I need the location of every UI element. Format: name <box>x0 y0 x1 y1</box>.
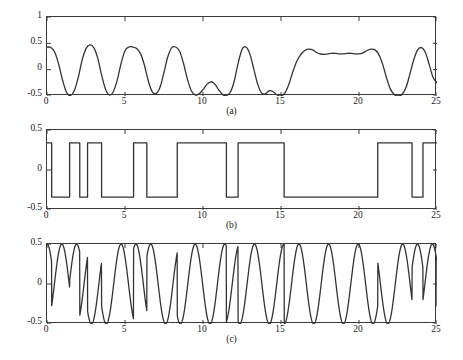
panel-b: 0.5 0 -0.5 0 5 10 15 20 25 (b) <box>0 115 463 230</box>
figure-canvas: 1 0.5 0 -0.5 0 5 10 15 20 25 (a) 0.5 0 -… <box>0 0 463 360</box>
panel-b-xtick-0: 0 <box>34 211 58 221</box>
panel-a-xtick-0: 0 <box>34 97 58 107</box>
panel-c-ytick-05: 0.5 <box>14 238 42 248</box>
panel-c-xtick-10: 10 <box>190 325 214 335</box>
panel-c: 0.5 0 -0.5 0 5 10 15 20 25 (c) <box>0 230 463 360</box>
panel-c-plot-box <box>46 243 436 323</box>
panel-b-xtick-10: 10 <box>190 211 214 221</box>
panel-c-curve <box>47 244 437 324</box>
panel-a-curve <box>47 17 437 96</box>
panel-b-ytick-05: 0.5 <box>14 124 42 134</box>
panel-c-xtick-0: 0 <box>34 325 58 335</box>
panel-a-xtick-20: 20 <box>346 97 370 107</box>
panel-a-ytick-05: 0.5 <box>14 37 42 47</box>
panel-c-caption: (c) <box>0 335 463 345</box>
panel-c-xtick-15: 15 <box>268 325 292 335</box>
panel-a-ytick-0: 0 <box>14 63 42 73</box>
panel-b-xtick-25: 25 <box>424 211 448 221</box>
panel-a-ytick-1: 1 <box>14 11 42 21</box>
panel-a-plot-box <box>46 16 436 95</box>
panel-a-xtick-15: 15 <box>268 97 292 107</box>
panel-a-xtick-25: 25 <box>424 97 448 107</box>
panel-b-xtick-20: 20 <box>346 211 370 221</box>
panel-b-xtick-15: 15 <box>268 211 292 221</box>
panel-b-curve <box>47 130 437 210</box>
panel-c-xtick-5: 5 <box>112 325 136 335</box>
panel-c-xtick-20: 20 <box>346 325 370 335</box>
panel-b-ytick-0: 0 <box>14 164 42 174</box>
panel-b-plot-box <box>46 129 436 209</box>
panel-c-xtick-25: 25 <box>424 325 448 335</box>
panel-a-xtick-10: 10 <box>190 97 214 107</box>
panel-a: 1 0.5 0 -0.5 0 5 10 15 20 25 (a) <box>0 0 463 115</box>
panel-b-xtick-5: 5 <box>112 211 136 221</box>
panel-a-xtick-5: 5 <box>112 97 136 107</box>
panel-c-ytick-0: 0 <box>14 278 42 288</box>
